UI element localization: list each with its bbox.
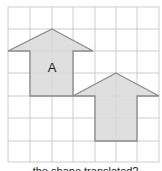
shape-a-label: A [48,60,57,75]
grid-diagram: A [0,0,162,171]
question-caption: ...the shape translated? [0,165,162,171]
shape-b-arrow [73,73,159,141]
